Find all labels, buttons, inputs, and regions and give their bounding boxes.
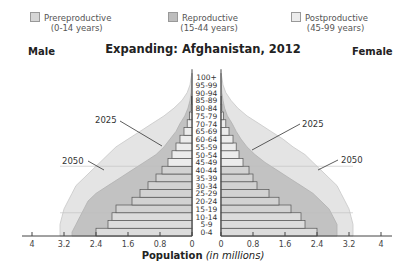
svg-text:0.8: 0.8 bbox=[154, 240, 167, 249]
x-axis-label-bold: Population bbox=[142, 250, 203, 261]
svg-text:85-89: 85-89 bbox=[196, 96, 218, 105]
svg-text:2050: 2050 bbox=[62, 156, 84, 166]
svg-text:65-69: 65-69 bbox=[196, 127, 218, 136]
svg-text:0.8: 0.8 bbox=[247, 240, 260, 249]
svg-text:100+: 100+ bbox=[196, 73, 217, 82]
age-labels: 0-45-910-1415-1920-2425-2930-3435-3940-4… bbox=[196, 73, 218, 237]
svg-text:2025: 2025 bbox=[302, 119, 324, 129]
svg-text:30-34: 30-34 bbox=[196, 182, 218, 191]
svg-text:75-79: 75-79 bbox=[196, 112, 218, 121]
svg-text:3.2: 3.2 bbox=[343, 240, 356, 249]
svg-text:10-14: 10-14 bbox=[196, 213, 218, 222]
svg-text:70-74: 70-74 bbox=[196, 120, 218, 129]
svg-text:1.6: 1.6 bbox=[122, 240, 135, 249]
svg-text:40-44: 40-44 bbox=[196, 166, 218, 175]
svg-text:4: 4 bbox=[378, 240, 383, 249]
svg-text:2050: 2050 bbox=[341, 155, 363, 165]
population-pyramid-chart: 0-45-910-1415-1920-2425-2930-3435-3940-4… bbox=[0, 0, 406, 278]
svg-text:2.4: 2.4 bbox=[311, 240, 324, 249]
svg-text:95-99: 95-99 bbox=[196, 81, 218, 90]
svg-text:45-49: 45-49 bbox=[196, 158, 218, 167]
svg-text:80-84: 80-84 bbox=[196, 104, 218, 113]
svg-text:55-59: 55-59 bbox=[196, 143, 218, 152]
svg-text:35-39: 35-39 bbox=[196, 174, 218, 183]
svg-text:4: 4 bbox=[29, 240, 34, 249]
svg-text:50-54: 50-54 bbox=[196, 151, 218, 160]
svg-text:60-64: 60-64 bbox=[196, 135, 218, 144]
svg-text:0: 0 bbox=[189, 240, 194, 249]
svg-text:0: 0 bbox=[218, 240, 223, 249]
svg-text:2025: 2025 bbox=[95, 115, 117, 125]
svg-text:1.6: 1.6 bbox=[279, 240, 292, 249]
svg-text:0-4: 0-4 bbox=[200, 228, 212, 237]
svg-text:5-9: 5-9 bbox=[200, 220, 212, 229]
x-axis-label-units: (in millions) bbox=[206, 250, 265, 261]
svg-text:25-29: 25-29 bbox=[196, 189, 218, 198]
svg-text:20-24: 20-24 bbox=[196, 197, 218, 206]
x-axis-label: Population (in millions) bbox=[0, 250, 406, 261]
svg-text:90-94: 90-94 bbox=[196, 89, 218, 98]
svg-text:3.2: 3.2 bbox=[58, 240, 71, 249]
svg-text:15-19: 15-19 bbox=[196, 205, 218, 214]
svg-text:2.4: 2.4 bbox=[90, 240, 103, 249]
